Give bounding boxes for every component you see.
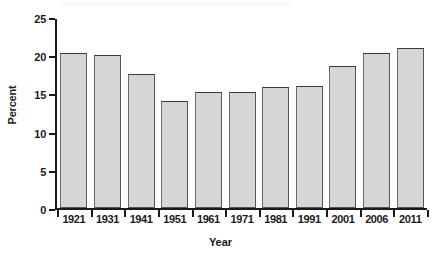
x-tick-label: 1941 (124, 213, 158, 225)
bar-1951[interactable] (161, 101, 188, 208)
y-tick-label: 15 (22, 90, 46, 101)
bar-slot (225, 19, 259, 208)
bar-slot (292, 19, 326, 208)
bar-slot (326, 19, 360, 208)
x-tick-label: 1931 (91, 213, 125, 225)
x-axis-line (55, 208, 427, 210)
bar-chart: Percent 0510152025 192119311941195119611… (0, 0, 441, 264)
x-tick-label: 2011 (393, 213, 427, 225)
y-tick-mark (49, 209, 55, 211)
bar-slot (124, 19, 158, 208)
y-tick-mark (49, 56, 55, 58)
y-axis-title: Percent (2, 0, 22, 210)
bar-1931[interactable] (94, 55, 121, 208)
bar-slot (393, 19, 427, 208)
bar-slot (91, 19, 125, 208)
bar-slot (192, 19, 226, 208)
x-tick-label: 1951 (158, 213, 192, 225)
x-tick-label: 1961 (192, 213, 226, 225)
y-tick-label: 5 (22, 166, 46, 177)
y-axis-tick-labels: 0510152025 (22, 0, 46, 264)
x-tick-mark (427, 210, 429, 217)
x-tick-label: 1991 (292, 213, 326, 225)
y-tick-mark (49, 171, 55, 173)
y-tick-label: 0 (22, 205, 46, 216)
y-tick-mark (49, 18, 55, 20)
bar-slot (158, 19, 192, 208)
x-axis-tick-labels: 1921193119411951196119711981199120012006… (57, 213, 427, 225)
bar-1941[interactable] (128, 74, 155, 208)
x-tick-label: 2006 (360, 213, 394, 225)
x-tick-label: 1981 (259, 213, 293, 225)
bar-1921[interactable] (60, 53, 87, 208)
bar-1981[interactable] (262, 87, 289, 208)
bar-1991[interactable] (296, 86, 323, 208)
bar-slot (360, 19, 394, 208)
y-tick-label: 20 (22, 52, 46, 63)
x-axis-title: Year (0, 236, 441, 248)
x-tick-label: 1921 (57, 213, 91, 225)
y-tick-mark (49, 94, 55, 96)
bar-1971[interactable] (229, 92, 256, 208)
bar-slot (259, 19, 293, 208)
x-tick-label: 2001 (326, 213, 360, 225)
bar-2006[interactable] (363, 53, 390, 208)
bar-1961[interactable] (195, 92, 222, 208)
y-tick-label: 25 (22, 14, 46, 25)
y-axis-title-text: Percent (6, 86, 18, 125)
bar-2011[interactable] (397, 48, 424, 208)
x-tick-label: 1971 (225, 213, 259, 225)
plot-area (55, 19, 427, 210)
bar-slot (57, 19, 91, 208)
bar-series (57, 19, 427, 208)
bar-2001[interactable] (329, 66, 356, 208)
y-tick-mark (49, 133, 55, 135)
y-tick-label: 10 (22, 128, 46, 139)
cropped-title-remnant (60, 1, 290, 7)
